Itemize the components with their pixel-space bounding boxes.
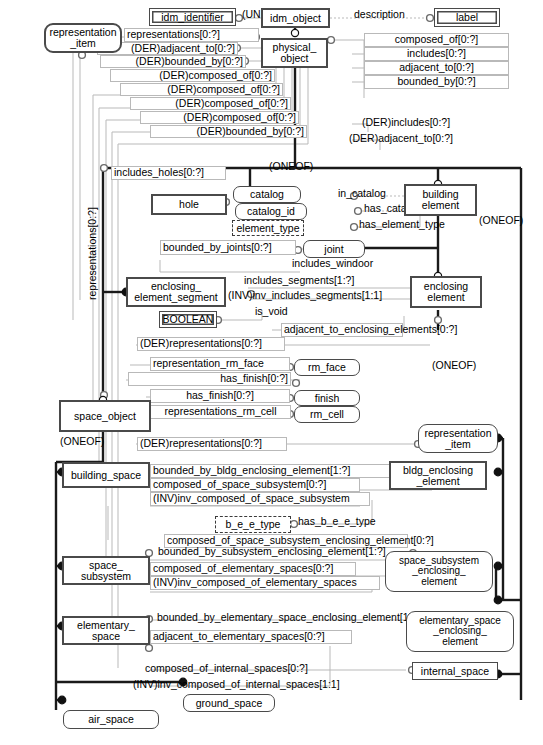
entity-representation-item-mid[interactable]: representation _item: [418, 424, 498, 453]
attr-has-finish-1: has_finish[0:?]: [128, 372, 291, 386]
attr-inv-composed-of-elementary-spaces: (INV)inv_composed_of_elementary_spaces: [150, 576, 380, 590]
attr-description: description: [352, 9, 407, 20]
attr-der-composed-of-2: (DER)composed_of[0:?]: [120, 83, 283, 96]
attr-includes-holes: includes_holes[0:?]: [111, 166, 226, 180]
attr-bounded-by-subsystem-enclosing-element: bounded_by_subsystem_enclosing_element[1…: [156, 546, 388, 557]
attr-adjacent-to-elementary-spaces: adjacent_to_elementary_spaces[0:?]: [150, 630, 352, 644]
attr-der-bounded-by-2: (DER)bounded_by[0:?]: [150, 125, 307, 138]
express-g-diagram-canvas: representation _item idm_identifier idm_…: [0, 0, 543, 745]
entity-finish[interactable]: finish: [294, 390, 360, 406]
attr-inv-composed-of-space-subsystem: (INV)inv_composed_of_space_subsystem: [150, 492, 370, 506]
attr-adjacent-to: adjacent_to[0:?]: [364, 61, 509, 75]
constraint-oneof-3: (ONEOF): [432, 359, 476, 371]
attr-der-includes: (DER)includes[0:?]: [360, 117, 452, 128]
attr-representation-rm-face: representation_rm_face: [150, 357, 290, 371]
attr-der-bounded-by: (DER)bounded_by[0:?]: [100, 55, 246, 68]
entity-boolean[interactable]: BOOLEAN: [159, 311, 217, 328]
constraint-oneof-2: (ONEOF): [479, 214, 523, 226]
entity-rm-cell[interactable]: rm_cell: [294, 406, 360, 423]
attr-bounded-by-bldg-enclosing-element: bounded_by_bldg_enclosing_element[1:?]: [150, 464, 390, 478]
entity-elementary-space[interactable]: elementary_ space: [62, 616, 150, 645]
entity-enclosing-element-segment[interactable]: enclosing_ element_segment: [126, 277, 226, 307]
attr-includes-segments: includes_segments[1:?]: [242, 275, 356, 286]
attr-includes-windoor: includes_windoor: [290, 258, 375, 269]
attr-bounded-by: bounded_by[0:?]: [364, 75, 509, 89]
attr-der-adjacent-to-2: (DER)adjacent_to[0:?]: [347, 133, 455, 144]
attr-representations-rm-cell: representations_rm_cell: [150, 405, 291, 419]
attr-bounded-by-elementary-space-enclosing-element: bounded_by_elementary_space_enclosing_el…: [155, 612, 422, 623]
entity-b-e-e-type[interactable]: b_e_e_type: [215, 516, 291, 533]
entity-rm-face[interactable]: rm_face: [294, 359, 360, 376]
entity-hole[interactable]: hole: [151, 194, 227, 215]
attr-bounded-by-joints: bounded_by_joints[0:?]: [160, 240, 296, 255]
attr-der-composed-of-1: (DER)composed_of[0:?]: [110, 69, 275, 82]
attr-includes: includes[0:?]: [364, 47, 509, 61]
attr-der-composed-of-3: (DER)composed_of[0:?]: [130, 97, 291, 110]
entity-physical-object[interactable]: physical_ object: [261, 38, 328, 68]
attr-has-b-e-e-type: has_b_e_e_type: [296, 516, 378, 527]
attr-der-representations-2: (DER)representations[0:?]: [137, 437, 287, 451]
entity-joint[interactable]: joint: [303, 240, 365, 258]
entity-building-space[interactable]: building_space: [62, 462, 150, 488]
entity-label[interactable]: label: [434, 8, 500, 27]
entity-catalog[interactable]: catalog: [233, 186, 301, 203]
entity-enclosing-element[interactable]: enclosing element: [410, 276, 482, 308]
entity-space-subsystem[interactable]: space_ subsystem: [62, 556, 150, 585]
constraint-oneof-4: (ONEOF): [60, 435, 104, 447]
entity-internal-space[interactable]: internal_space: [412, 662, 498, 680]
attr-in-catalog: in_catalog: [336, 188, 388, 199]
entity-ground-space[interactable]: ground_space: [183, 694, 275, 712]
attr-has-element-type: has_element_type: [357, 219, 447, 230]
entity-idm-object[interactable]: idm_object: [261, 8, 330, 28]
entity-air-space[interactable]: air_space: [63, 710, 159, 729]
attr-representations: representations[0:?]: [124, 28, 259, 42]
attr-adjacent-to-enclosing-elements: adjacent_to_enclosing_elements[0:?]: [281, 323, 403, 337]
entity-representation-item-top[interactable]: representation _item: [44, 23, 122, 53]
attr-inv-composed-of-internal-spaces: (INV)inv_composed_of_internal_spaces[1:1…: [131, 679, 342, 690]
attr-inv-includes-segments: (INV)inv_includes_segments[1:1]: [226, 290, 384, 301]
constraint-oneof-1: (ONEOF): [269, 160, 313, 172]
entity-elementary-space-enclosing-element[interactable]: elementary_space _enclosing_ element: [406, 611, 514, 652]
entity-element-type[interactable]: element_type: [232, 220, 304, 236]
attr-composed-of-elementary-spaces: composed_of_elementary_spaces[0:?]: [150, 562, 356, 576]
attr-representations-vertical: representations[0:?]: [86, 207, 98, 300]
entity-bldg-enclosing-element[interactable]: bldg_enclosing _element: [389, 461, 487, 490]
entity-idm-identifier[interactable]: idm_identifier: [149, 8, 236, 26]
entity-space-subsystem-enclosing-element[interactable]: space_subsystem _enclosing_ element: [385, 551, 493, 592]
attr-der-representations-1: (DER)representations[0:?]: [137, 337, 285, 351]
entity-space-object[interactable]: space_object: [59, 400, 151, 432]
attr-composed-of: composed_of[0:?]: [364, 33, 509, 47]
attr-composed-of-space-subsystem: composed_of_space_subsystem[0:?]: [150, 478, 360, 492]
entity-building-element[interactable]: building element: [404, 184, 477, 216]
attr-is-void: is_void: [253, 306, 290, 317]
attr-der-composed-of-4: (DER)composed_of[0:?]: [140, 111, 299, 124]
attr-composed-of-internal-spaces: composed_of_internal_spaces[0:?]: [143, 663, 310, 674]
attr-has-finish-2: has_finish[0:?]: [150, 389, 290, 403]
entity-catalog-id[interactable]: catalog_id: [235, 203, 307, 220]
